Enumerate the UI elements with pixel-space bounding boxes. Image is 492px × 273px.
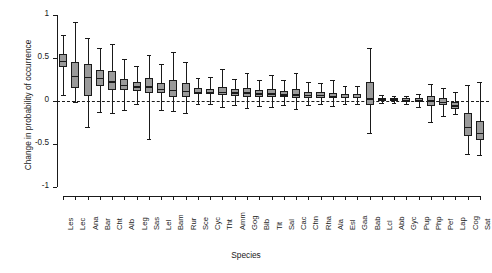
whisker-cap-upper: [134, 66, 139, 67]
box-plot-figure: Change in probability of occurrence Spec…: [0, 0, 492, 273]
whisker-lower: [431, 106, 432, 121]
whisker-cap-upper: [465, 85, 470, 86]
median-line: [96, 78, 104, 79]
median-line: [439, 102, 447, 103]
whisker-cap-lower: [318, 104, 323, 105]
median-line: [133, 86, 141, 87]
whisker-upper: [259, 80, 260, 90]
x-tick-label: Lap: [458, 217, 467, 230]
whisker-cap-upper: [269, 75, 274, 76]
whisker-cap-upper: [428, 84, 433, 85]
whisker-cap-upper: [245, 73, 250, 74]
whisker-upper: [235, 79, 236, 89]
median-line: [329, 96, 337, 97]
y-tick-mark: [53, 144, 57, 145]
box-iqr: [84, 64, 92, 96]
x-axis-spine: [63, 196, 481, 197]
whisker-cap-upper: [367, 48, 372, 49]
median-line: [218, 92, 226, 93]
y-tick-label: 0: [23, 95, 49, 104]
whisker-cap-upper: [61, 35, 66, 36]
whisker-upper: [161, 64, 162, 83]
whisker-lower: [308, 98, 309, 106]
whisker-cap-upper: [477, 82, 482, 83]
whisker-upper: [431, 84, 432, 96]
median-line: [206, 92, 214, 93]
whisker-upper: [198, 78, 199, 88]
median-line: [402, 100, 410, 101]
median-line: [341, 97, 349, 98]
whisker-lower: [186, 97, 187, 113]
whisker-cap-upper: [232, 79, 237, 80]
x-tick-label: Lel: [164, 220, 173, 230]
median-line: [451, 105, 459, 106]
whisker-lower: [284, 97, 285, 106]
whisker-cap-lower: [281, 105, 286, 106]
median-line: [59, 61, 67, 62]
median-line: [292, 94, 300, 95]
whisker-cap-upper: [208, 77, 213, 78]
whisker-cap-upper: [453, 92, 458, 93]
whisker-upper: [173, 52, 174, 80]
whisker-lower: [333, 98, 334, 106]
median-line: [182, 91, 190, 92]
whisker-upper: [247, 73, 248, 88]
median-line: [464, 127, 472, 128]
whisker-lower: [161, 93, 162, 109]
whisker-cap-upper: [343, 86, 348, 87]
whisker-cap-lower: [367, 133, 372, 134]
median-line: [243, 92, 251, 93]
median-line: [353, 97, 361, 98]
whisker-lower: [173, 97, 174, 112]
whisker-cap-upper: [379, 95, 384, 96]
whisker-lower: [88, 96, 89, 127]
whisker-upper: [88, 38, 89, 64]
whisker-upper: [75, 22, 76, 62]
whisker-cap-lower: [465, 154, 470, 155]
whisker-cap-upper: [159, 64, 164, 65]
whisker-lower: [321, 98, 322, 105]
whisker-cap-upper: [306, 82, 311, 83]
median-line: [415, 100, 423, 101]
whisker-cap-lower: [85, 127, 90, 128]
x-tick-label: Rur: [189, 218, 198, 230]
whisker-upper: [468, 85, 469, 113]
median-line: [476, 133, 484, 134]
x-tick-label: Cac: [299, 216, 308, 230]
x-tick-label: Sal: [287, 219, 296, 230]
whisker-cap-upper: [392, 96, 397, 97]
x-tick-label: Abb: [397, 216, 406, 230]
whisker-cap-lower: [257, 106, 262, 107]
median-line: [427, 100, 435, 101]
whisker-upper: [308, 82, 309, 91]
whisker-cap-lower: [97, 112, 102, 113]
median-line: [304, 95, 312, 96]
median-line: [390, 99, 398, 100]
whisker-cap-lower: [355, 104, 360, 105]
whisker-upper: [100, 48, 101, 70]
box-iqr: [366, 82, 374, 105]
y-tick-label: -0.5: [23, 138, 49, 147]
whisker-upper: [186, 62, 187, 83]
x-tick-label: Cog: [471, 216, 480, 230]
median-line: [71, 76, 79, 77]
whisker-cap-upper: [110, 44, 115, 45]
x-tick-label: Ala: [336, 219, 345, 230]
whisker-lower: [210, 94, 211, 104]
median-line: [84, 77, 92, 78]
whisker-cap-upper: [330, 80, 335, 81]
median-line: [145, 86, 153, 87]
whisker-cap-lower: [269, 107, 274, 108]
whisker-cap-lower: [183, 113, 188, 114]
whisker-lower: [137, 91, 138, 105]
whisker-upper: [284, 80, 285, 90]
whisker-upper: [296, 73, 297, 89]
whisker-lower: [259, 97, 260, 106]
y-tick-mark: [53, 58, 57, 59]
whisker-cap-upper: [171, 52, 176, 53]
x-tick-label: Bam: [176, 214, 185, 230]
whisker-lower: [124, 90, 125, 110]
whisker-cap-lower: [61, 95, 66, 96]
whisker-cap-lower: [343, 104, 348, 105]
whisker-cap-lower: [171, 111, 176, 112]
